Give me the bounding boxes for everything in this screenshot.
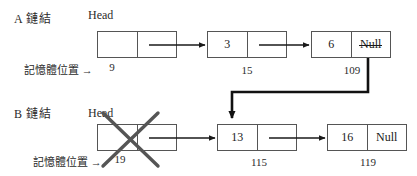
node-b-0-pointer <box>138 125 177 150</box>
node-b-1-pointer <box>258 125 297 150</box>
node-b-0[interactable] <box>97 124 177 151</box>
row-label-b: B 鏈結 <box>14 104 51 122</box>
address-b-1: 115 <box>245 156 273 168</box>
address-b-0: 19 <box>108 153 132 165</box>
memory-label-a: 記憶體位置 → <box>24 61 93 77</box>
memory-label-b: 記憶體位置 → <box>33 153 102 169</box>
node-a-2-pointer: Null <box>352 32 391 57</box>
node-a-1-pointer <box>248 32 287 57</box>
node-a-2[interactable]: 6 Null <box>311 31 391 58</box>
node-b-2-data: 16 <box>328 125 368 150</box>
row-label-a: A 鏈結 <box>14 9 51 27</box>
address-a-0: 9 <box>100 61 124 73</box>
node-b-2[interactable]: 16 Null <box>327 124 407 151</box>
address-b-2: 119 <box>354 156 382 168</box>
node-a-2-data: 6 <box>312 32 352 57</box>
node-a-0-data <box>98 32 138 57</box>
node-a-1[interactable]: 3 <box>207 31 287 58</box>
node-b-2-pointer: Null <box>368 125 407 150</box>
address-a-2: 109 <box>338 64 366 76</box>
node-b-1-data: 13 <box>218 125 258 150</box>
node-a-1-data: 3 <box>208 32 248 57</box>
address-a-1: 15 <box>235 64 259 76</box>
linked-list-diagram: A 鏈結 Head 3 6 Null 記憶體位置 → 9 15 109 B 鏈結… <box>0 0 417 176</box>
head-label-a: Head <box>88 8 113 23</box>
node-a-2-pointer-text: Null <box>360 37 381 52</box>
node-a-0[interactable] <box>97 31 177 58</box>
node-b-1[interactable]: 13 <box>217 124 297 151</box>
node-a-0-pointer <box>138 32 177 57</box>
head-label-b: Head <box>88 106 113 121</box>
node-b-0-data <box>98 125 138 150</box>
